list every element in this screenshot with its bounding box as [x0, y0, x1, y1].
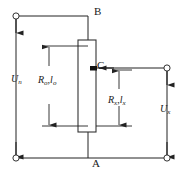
voltage-label-left: Un: [11, 74, 22, 84]
resistance-full-subscript: o: [44, 79, 48, 87]
dimension-label-Ro-lo: Ro,lo: [38, 75, 56, 85]
terminal-top-right[interactable]: [164, 65, 170, 71]
resistance-part-subscript: x: [114, 99, 117, 107]
node-label-c: C: [97, 60, 104, 71]
node-label-a: A: [92, 158, 100, 169]
voltage-left-subscript: n: [18, 78, 22, 86]
dimension-label-Rx-lx: Rx,lx: [108, 95, 126, 105]
slider-contact-block: [90, 66, 97, 71]
circuit-diagram: B C A Un Ro,lo Rx,lx Ux: [0, 0, 183, 174]
circuit-schematic-svg: [0, 0, 183, 174]
node-label-b: B: [94, 6, 101, 17]
voltage-right-subscript: x: [167, 108, 170, 116]
slide-wire-resistor: [78, 40, 96, 132]
terminal-top-left[interactable]: [13, 13, 19, 19]
terminal-bottom-left[interactable]: [13, 155, 19, 161]
voltage-label-right: Ux: [160, 104, 170, 114]
length-part-subscript: x: [123, 99, 126, 107]
length-full-subscript: o: [53, 79, 57, 87]
terminal-bottom-right[interactable]: [164, 155, 170, 161]
